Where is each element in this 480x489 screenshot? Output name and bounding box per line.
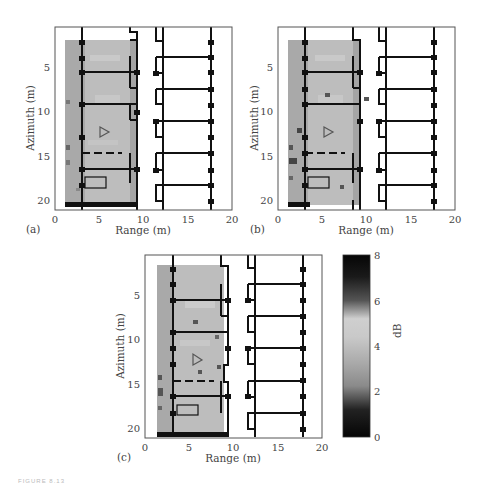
svg-text:0: 0 — [52, 214, 58, 225]
panel-c-plot: 0 5 10 15 20 5 10 15 20 Range (m) Azimut… — [100, 240, 380, 480]
panel-c-ylabel: Azimuth (m) — [114, 313, 126, 380]
panel-a-label: (a) — [26, 223, 40, 235]
svg-text:0: 0 — [142, 442, 148, 453]
svg-text:5: 5 — [44, 62, 50, 73]
panel-c: 0 5 10 15 20 5 10 15 20 Range (m) Azimut… — [100, 240, 380, 480]
colorbar-label: dB — [391, 324, 403, 338]
panel-b-label: (b) — [250, 223, 265, 235]
panel-b: 0 5 10 15 20 5 10 15 20 Range (m) Azimut… — [240, 0, 480, 240]
svg-text:5: 5 — [134, 290, 140, 301]
svg-text:10: 10 — [127, 334, 140, 345]
svg-text:15: 15 — [37, 151, 50, 162]
svg-text:60: 60 — [374, 296, 380, 307]
panel-b-yticks: 5 10 15 20 — [260, 62, 273, 206]
panel-b-plot: 0 5 10 15 20 5 10 15 20 Range (m) Azimut… — [240, 0, 480, 240]
svg-text:15: 15 — [272, 442, 285, 453]
svg-text:15: 15 — [182, 214, 195, 225]
panel-a-ylabel: Azimuth (m) — [24, 85, 36, 152]
svg-text:20: 20 — [260, 195, 273, 206]
svg-text:5: 5 — [267, 62, 273, 73]
svg-text:15: 15 — [405, 214, 418, 225]
panel-a-xlabel: Range (m) — [115, 224, 171, 236]
panel-c-label: (c) — [117, 451, 131, 463]
svg-text:15: 15 — [260, 151, 273, 162]
svg-text:15: 15 — [127, 379, 140, 390]
svg-text:5: 5 — [96, 214, 102, 225]
panel-a-yticks: 5 10 15 20 — [37, 62, 50, 206]
panel-c-xlabel: Range (m) — [205, 452, 261, 464]
colorbar-unit: dB — [391, 324, 403, 338]
panel-a: 0 5 10 15 20 5 10 15 20 Range (m) Azimut… — [0, 0, 240, 240]
panel-a-image — [65, 40, 137, 207]
panel-b-xlabel: Range (m) — [338, 224, 394, 236]
colorbar: 80 60 40 20 0 — [343, 250, 380, 443]
svg-text:20: 20 — [449, 214, 462, 225]
svg-text:40: 40 — [374, 341, 380, 352]
svg-text:5: 5 — [186, 442, 192, 453]
svg-text:20: 20 — [127, 423, 140, 434]
panel-b-ylabel: Azimuth (m) — [248, 85, 260, 152]
svg-text:20: 20 — [226, 214, 239, 225]
svg-text:20: 20 — [374, 386, 380, 397]
svg-text:10: 10 — [260, 106, 273, 117]
svg-text:0: 0 — [275, 214, 281, 225]
panel-c-yticks: 5 10 15 20 — [127, 290, 140, 434]
figure-caption-fragment: FIGURE 8.13 — [18, 478, 65, 484]
svg-text:80: 80 — [374, 250, 380, 261]
svg-text:20: 20 — [316, 442, 329, 453]
colorbar-gradient — [343, 255, 370, 437]
panel-a-plot: 0 5 10 15 20 5 10 15 20 Range (m) Azimut… — [0, 0, 240, 240]
svg-text:10: 10 — [37, 106, 50, 117]
panel-c-image — [157, 265, 227, 437]
svg-text:20: 20 — [37, 195, 50, 206]
svg-text:5: 5 — [319, 214, 325, 225]
svg-text:0: 0 — [374, 432, 380, 443]
